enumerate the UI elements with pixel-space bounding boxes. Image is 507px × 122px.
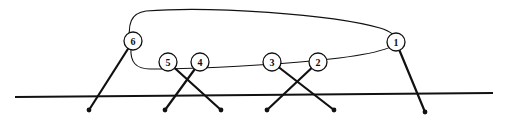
node-marker-3: 3	[263, 53, 281, 71]
strand-endpoint-node-1	[423, 110, 428, 115]
knot-diagram-canvas: 1 2 3 4 5 6	[0, 0, 507, 122]
knot-diagram-figure: 1 2 3 4 5 6	[0, 0, 507, 122]
strand-from-node-1	[396, 42, 425, 112]
node-marker-4: 4	[191, 53, 209, 71]
strand-endpoint-node-4	[163, 108, 168, 113]
node-circle	[309, 53, 327, 71]
horizontal-baseline	[15, 93, 493, 97]
strand-endpoint-node-3	[332, 108, 337, 113]
node-circle	[387, 33, 405, 51]
loop-upper-arc	[129, 10, 398, 48]
node-marker-2: 2	[309, 53, 327, 71]
strand-endpoint-node-2	[265, 108, 270, 113]
strand-from-node-3	[272, 62, 334, 110]
node-circle	[124, 32, 142, 50]
node-marker-1: 1	[387, 33, 405, 51]
strand-from-node-6	[89, 41, 133, 110]
node-circle	[191, 53, 209, 71]
strand-endpoint-node-5	[219, 108, 224, 113]
node-marker-6: 6	[124, 32, 142, 50]
node-circle	[159, 53, 177, 71]
strand-endpoint-node-6	[87, 108, 92, 113]
node-circle	[263, 53, 281, 71]
node-marker-5: 5	[159, 53, 177, 71]
